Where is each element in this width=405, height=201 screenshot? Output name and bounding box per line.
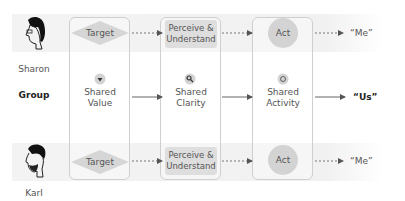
arrows-layer: [0, 0, 405, 201]
